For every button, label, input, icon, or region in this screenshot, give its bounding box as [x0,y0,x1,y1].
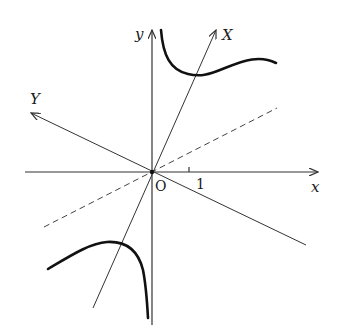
X-axis-label: X [221,26,234,44]
Y-axis [31,113,306,245]
tick-label-1: 1 [196,176,205,192]
hyperbola-upper-branch [161,30,276,75]
asymptote-dashed [44,108,277,227]
y-axis-label: y [134,25,144,43]
hyperbola-diagram: y X Y x O 1 [0,0,338,329]
origin-label: O [155,178,166,194]
X-axis [93,30,216,308]
x-axis-label: x [311,178,320,196]
Y-axis-label: Y [30,90,42,108]
hyperbola-lower-branch [48,242,148,318]
origin-dot [150,170,154,174]
